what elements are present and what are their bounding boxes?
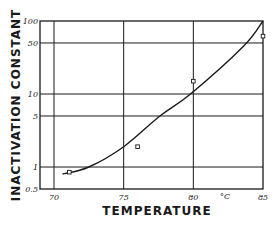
y-tick-label: 100	[23, 17, 38, 26]
x-axis-title: TEMPERATURE	[102, 204, 211, 218]
data-point-marker	[136, 145, 140, 149]
y-tick-labels: 0.5151050100	[23, 17, 38, 194]
x-unit-label: °C	[220, 192, 230, 201]
data-point-marker	[192, 79, 196, 83]
x-tick-label: 85	[258, 193, 268, 202]
data-point-marker	[261, 34, 265, 38]
y-tick-label: 50	[28, 39, 38, 48]
data-point-marker	[68, 170, 72, 174]
y-tick-label: 10	[28, 90, 38, 99]
x-tick-labels: 70758085	[49, 193, 268, 202]
y-tick-label: 0.5	[25, 185, 38, 194]
inactivation-chart: 0.5151050100 70758085 °C TEMPERATURE INA…	[0, 0, 280, 226]
fitted-curve	[62, 21, 263, 174]
grid-lines	[40, 21, 263, 189]
y-axis-title: INACTIVATION CONSTANT	[9, 9, 23, 202]
x-tick-label: 70	[49, 193, 59, 202]
x-tick-label: 75	[119, 193, 129, 202]
y-tick-label: 5	[33, 112, 38, 121]
plot-frame	[40, 21, 263, 189]
y-tick-label: 1	[33, 163, 38, 172]
x-tick-label: 80	[188, 193, 198, 202]
